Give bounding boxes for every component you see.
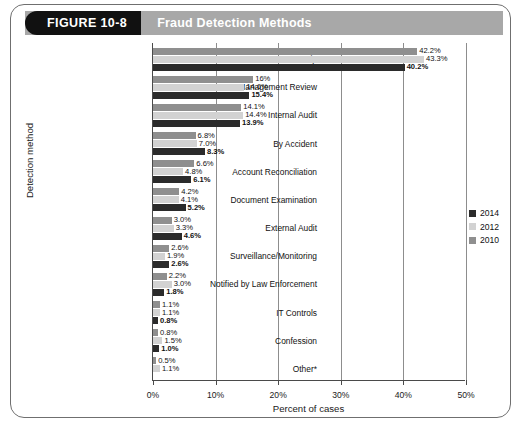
- bar-row[interactable]: 7.0%: [153, 140, 465, 147]
- gridline-50%: [466, 43, 467, 380]
- bar-2012[interactable]: [153, 253, 165, 260]
- bar-row[interactable]: 2.6%: [153, 245, 465, 252]
- bar-row[interactable]: 1.1%: [153, 301, 465, 308]
- bar-row[interactable]: 1.8%: [153, 289, 465, 296]
- legend-swatch-icon: [469, 237, 476, 244]
- bar-row[interactable]: 4.2%: [153, 188, 465, 195]
- bar-2012[interactable]: [153, 140, 197, 147]
- bar-2012[interactable]: [153, 365, 160, 372]
- x-tick-label: 40%: [395, 390, 412, 400]
- bar-row[interactable]: 14.1%: [153, 104, 465, 111]
- bar-row[interactable]: 13.9%: [153, 120, 465, 127]
- bar-2010[interactable]: [153, 217, 172, 224]
- bar-group: 4.2%4.1%5.2%: [153, 188, 465, 212]
- bar-row[interactable]: 14.6%: [153, 84, 465, 91]
- bar-row[interactable]: 14.4%: [153, 112, 465, 119]
- figure-title: Fraud Detection Methods: [141, 11, 312, 35]
- bar-group: 2.2%3.0%1.8%: [153, 273, 465, 297]
- bar-group: 2.6%1.9%2.6%: [153, 245, 465, 269]
- bar-2014[interactable]: [153, 233, 182, 240]
- bar-2014[interactable]: [153, 120, 240, 127]
- bar-2012[interactable]: [153, 168, 183, 175]
- bar-2012[interactable]: [153, 196, 179, 203]
- bar-row[interactable]: 3.0%: [153, 281, 465, 288]
- bar-value-label: 4.6%: [182, 231, 201, 240]
- bar-group: 42.2%43.3%40.2%: [153, 48, 465, 72]
- bar-value-label: 8.3%: [205, 147, 224, 156]
- bar-2010[interactable]: [153, 76, 253, 83]
- bar-row[interactable]: 1.0%: [153, 345, 465, 352]
- bar-row[interactable]: 42.2%: [153, 48, 465, 55]
- legend-item-2014[interactable]: 2014: [469, 208, 499, 218]
- bar-2014[interactable]: [153, 148, 205, 155]
- bar-2010[interactable]: [153, 132, 196, 139]
- legend-item-2012[interactable]: 2012: [469, 222, 499, 232]
- legend-swatch-icon: [469, 210, 476, 217]
- bar-row[interactable]: 1.1%: [153, 365, 465, 372]
- x-tick-label: 30%: [332, 390, 349, 400]
- y-axis-title: Detection method: [24, 101, 35, 221]
- bar-2012[interactable]: [153, 84, 244, 91]
- bar-2010[interactable]: [153, 188, 179, 195]
- bar-value-label: 1.8%: [164, 287, 183, 296]
- legend-label: 2012: [480, 222, 499, 232]
- bar-group: 1.1%1.1%0.8%: [153, 301, 465, 325]
- x-tick: [466, 380, 467, 385]
- bar-2010[interactable]: [153, 273, 167, 280]
- bar-group: 6.8%7.0%8.3%: [153, 132, 465, 156]
- x-axis-title: Percent of cases: [152, 403, 465, 414]
- bar-value-label: 1.0%: [159, 344, 178, 353]
- bar-2010[interactable]: [153, 48, 417, 55]
- figure-header: FIGURE 10-8 Fraud Detection Methods: [25, 11, 503, 35]
- bar-2010[interactable]: [153, 104, 241, 111]
- legend-item-2010[interactable]: 2010: [469, 235, 499, 245]
- bar-2012[interactable]: [153, 112, 243, 119]
- bar-row[interactable]: 15.4%: [153, 92, 465, 99]
- bar-group: 6.6%4.8%6.1%: [153, 160, 465, 184]
- bar-2014[interactable]: [153, 64, 405, 71]
- bar-row[interactable]: 0.8%: [153, 329, 465, 336]
- bar-row[interactable]: 6.1%: [153, 176, 465, 183]
- bar-row[interactable]: 2.6%: [153, 261, 465, 268]
- bar-row[interactable]: 1.9%: [153, 253, 465, 260]
- legend-label: 2010: [480, 235, 499, 245]
- bar-2012[interactable]: [153, 56, 424, 63]
- bar-2012[interactable]: [153, 225, 174, 232]
- x-tick-label: 10%: [207, 390, 224, 400]
- bar-value-label: 6.1%: [191, 175, 210, 184]
- x-tick-label: 50%: [457, 390, 474, 400]
- bar-2014[interactable]: [153, 261, 169, 268]
- bar-row[interactable]: 0.5%: [153, 357, 465, 364]
- bar-row[interactable]: 3.0%: [153, 217, 465, 224]
- bar-row[interactable]: 8.3%: [153, 148, 465, 155]
- figure-container: FIGURE 10-8 Fraud Detection Methods Dete…: [10, 4, 511, 418]
- legend-label: 2014: [480, 208, 499, 218]
- figure-number-badge: FIGURE 10-8: [25, 11, 141, 35]
- bar-group: 0.8%1.5%1.0%: [153, 329, 465, 353]
- bar-row[interactable]: 2.2%: [153, 273, 465, 280]
- bar-value-label: 5.2%: [186, 203, 205, 212]
- x-tick-label: 0%: [147, 390, 159, 400]
- bar-value-label: 13.9%: [240, 118, 264, 127]
- bar-group: 3.0%3.3%4.6%: [153, 217, 465, 241]
- bar-2014[interactable]: [153, 176, 191, 183]
- bar-row[interactable]: 16%: [153, 76, 465, 83]
- bar-row[interactable]: 1.5%: [153, 337, 465, 344]
- bar-row[interactable]: 1.1%: [153, 309, 465, 316]
- legend-swatch-icon: [469, 223, 476, 230]
- bar-2014[interactable]: [153, 92, 249, 99]
- bar-row[interactable]: 40.2%: [153, 64, 465, 71]
- bar-value-label: 1.1%: [160, 364, 179, 373]
- bar-row[interactable]: 5.2%: [153, 204, 465, 211]
- bar-row[interactable]: 4.6%: [153, 233, 465, 240]
- bar-row[interactable]: [153, 373, 465, 380]
- bar-value-label: 15.4%: [249, 90, 273, 99]
- bar-2014[interactable]: [153, 204, 186, 211]
- bar-row[interactable]: 0.8%: [153, 317, 465, 324]
- x-tick-label: 20%: [270, 390, 287, 400]
- plot-area: 0%10%20%30%40%50%Tip42.2%43.3%40.2%Manag…: [152, 43, 465, 381]
- bar-value-label: 2.6%: [169, 259, 188, 268]
- bar-2014[interactable]: [153, 289, 164, 296]
- bar-2010[interactable]: [153, 301, 160, 308]
- bar-group: 0.5%1.1%: [153, 357, 465, 381]
